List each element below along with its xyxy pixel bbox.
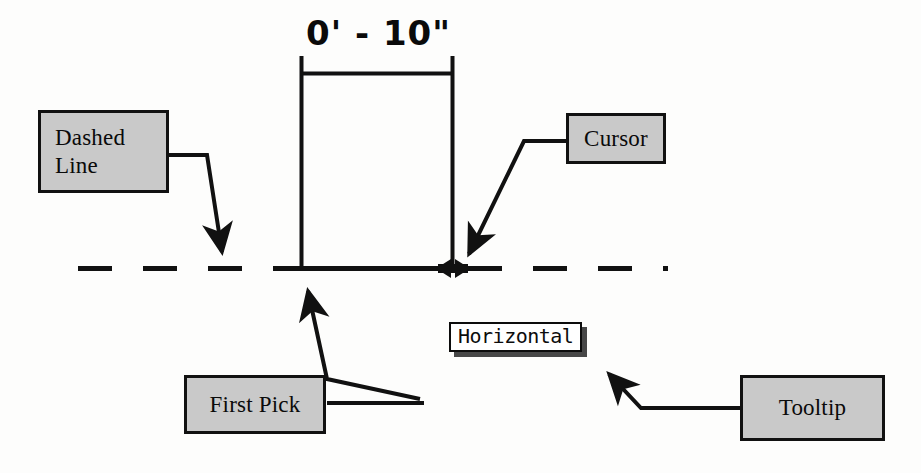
dimension-value-label: 0' - 10" [291, 13, 466, 53]
first-pick-point [301, 268, 302, 269]
callout-tooltip[interactable]: Tooltip [740, 375, 885, 441]
callout-dashed-line[interactable]: Dashed Line [38, 110, 169, 193]
diagram-canvas: 0' - 10" Dashed Line Cursor First Pick T… [0, 0, 921, 473]
leader-cursor [469, 141, 566, 254]
callout-cursor[interactable]: Cursor [566, 113, 666, 164]
tooltip-horizontal: Horizontal [449, 322, 582, 352]
leader-tooltip [609, 374, 740, 408]
callout-first-pick[interactable]: First Pick [184, 375, 326, 434]
leader-dashed-line [169, 155, 222, 252]
